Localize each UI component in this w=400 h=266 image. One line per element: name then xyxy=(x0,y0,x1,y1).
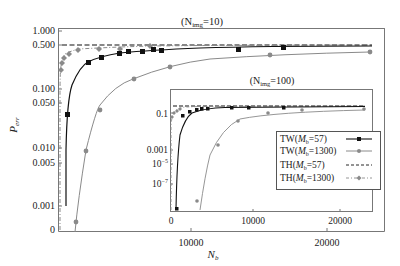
svg-text:0.001: 0.001 xyxy=(147,145,169,155)
svg-text:10−7: 10−7 xyxy=(152,178,168,189)
svg-text:20000: 20000 xyxy=(328,216,352,226)
inset-title: (Nimg=100) xyxy=(250,75,295,87)
svg-text:10−5: 10−5 xyxy=(152,158,168,169)
inset-x-ticks: 0 10000 20000 xyxy=(169,216,353,226)
svg-text:0: 0 xyxy=(169,216,174,226)
plot-canvas: (Nimg=100) 0.1 0.001 10−5 10−7 0 10000 2… xyxy=(0,0,400,266)
svg-text:TH(Mb=57): TH(Mb=57) xyxy=(280,160,325,171)
legend: TW(Mb=57) TW(Mb=1300) TH(Mb=57) TH(Mb=13… xyxy=(277,132,381,190)
svg-text:0.1: 0.1 xyxy=(156,109,168,119)
svg-text:TW(Mb=57): TW(Mb=57) xyxy=(280,134,327,145)
inset-y-ticks: 0.1 0.001 10−5 10−7 xyxy=(147,109,169,189)
svg-text:TH(Mb=1300): TH(Mb=1300) xyxy=(280,173,334,184)
svg-text:TW(Mb=1300): TW(Mb=1300) xyxy=(280,146,336,157)
svg-text:10000: 10000 xyxy=(241,216,265,226)
